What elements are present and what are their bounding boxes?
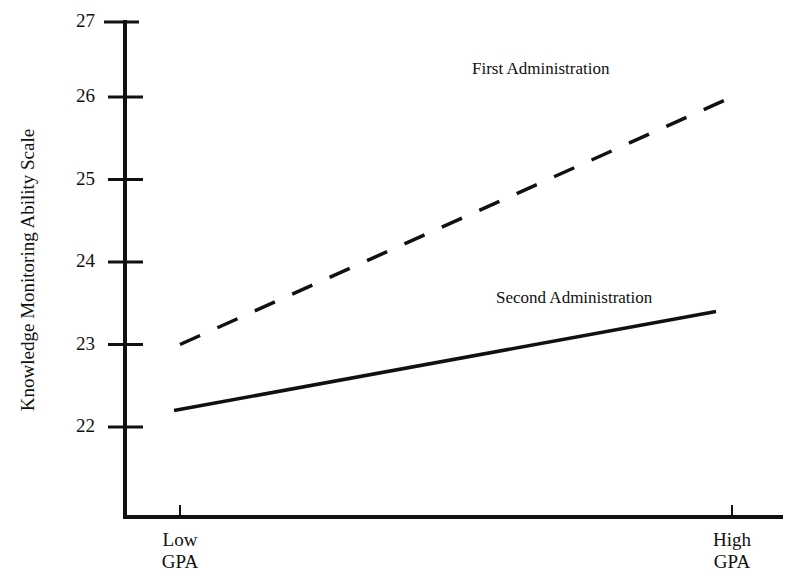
line-chart: Knowledge Monitoring Ability Scale 22232… [0, 0, 796, 587]
y-tick-label: 23 [55, 333, 95, 355]
series-lines [174, 97, 732, 411]
x-tick-label: LowGPA [140, 529, 220, 573]
series-label-first-administration: First Administration [472, 59, 609, 79]
y-tick-label: 26 [55, 85, 95, 107]
y-tick-label: 27 [55, 10, 95, 32]
x-tick-label: HighGPA [692, 529, 772, 573]
chart-canvas [0, 0, 796, 587]
series-line-second-administration [174, 312, 716, 411]
y-tick-label: 25 [55, 168, 95, 190]
y-tick-label: 24 [55, 250, 95, 272]
series-label-second-administration: Second Administration [496, 288, 652, 308]
y-tick-label: 22 [55, 415, 95, 437]
